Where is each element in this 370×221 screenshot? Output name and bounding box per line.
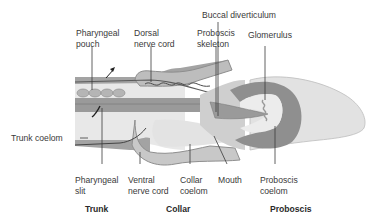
label-trunk-coelom: Trunk coelom xyxy=(11,133,63,144)
label-proboscis-coelom: Proboscis coelom xyxy=(260,175,298,196)
label-glomerulus: Glomerulus xyxy=(248,30,292,41)
label-collar-coelom: Collar coelom xyxy=(180,175,208,196)
label-proboscis-skeleton: Proboscis skeleton xyxy=(197,28,235,49)
label-mouth: Mouth xyxy=(218,175,242,186)
label-pharyngeal-slit: Pharyngeal slit xyxy=(75,175,118,196)
label-ventral-nerve-cord: Ventral nerve cord xyxy=(128,175,169,196)
label-pharyngeal-pouch: Pharyngeal pouch xyxy=(76,28,119,49)
region-proboscis: Proboscis xyxy=(270,204,312,214)
label-buccal-diverticulum: Buccal diverticulum xyxy=(202,10,276,21)
water-flow-arrow xyxy=(106,67,115,78)
region-trunk: Trunk xyxy=(85,204,108,214)
collar-dorsal-bulge xyxy=(135,60,232,86)
label-dorsal-nerve-cord: Dorsal nerve cord xyxy=(134,28,175,49)
region-collar: Collar xyxy=(166,204,190,214)
